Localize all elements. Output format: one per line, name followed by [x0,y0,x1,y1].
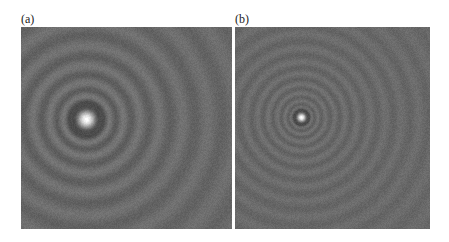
panel-b-image [235,27,430,229]
panel-b-label: (b) [235,13,249,25]
diffraction-pattern-b [235,27,430,229]
panel-a-image [21,27,232,229]
diffraction-pattern-a [21,27,232,229]
panel-a-label: (a) [21,13,34,25]
